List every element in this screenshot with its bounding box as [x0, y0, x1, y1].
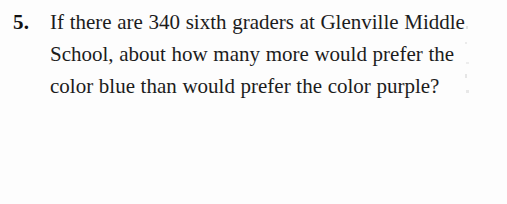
question-number: 5. — [13, 6, 43, 38]
question-item: 5. If there are 340 sixth graders at Gle… — [0, 6, 507, 102]
worksheet-page: 5. If there are 340 sixth graders at Gle… — [0, 0, 507, 204]
question-text: If there are 340 sixth graders at Glenvi… — [50, 6, 471, 102]
